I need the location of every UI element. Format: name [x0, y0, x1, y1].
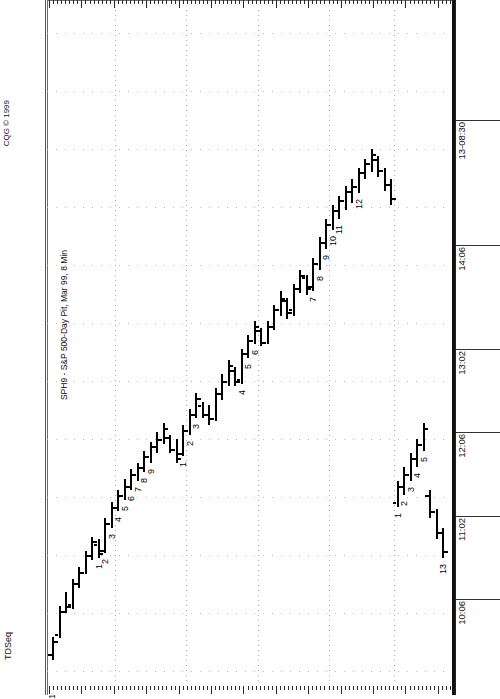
axis-tick [288, 686, 289, 690]
ohlc-open-tick [159, 439, 163, 441]
axis-tick [414, 686, 415, 690]
axis-tick [57, 686, 58, 690]
price-axis[interactable]: CQG © 1999 12650012600012550012500012450… [0, 0, 46, 695]
tdseq-count-text: 4 [238, 390, 247, 395]
axis-tick [341, 0, 342, 8]
ohlc-bar[interactable] [143, 451, 145, 472]
ohlc-open-tick [100, 550, 104, 552]
ohlc-bar[interactable] [351, 179, 353, 202]
ohlc-bar[interactable] [130, 469, 132, 490]
axis-tick [130, 0, 131, 4]
axis-tick [102, 686, 103, 690]
axis-tick [446, 0, 447, 4]
axis-tick [397, 0, 398, 4]
axis-tick [410, 0, 411, 4]
ohlc-bar[interactable] [221, 374, 223, 400]
ohlc-bar[interactable] [52, 637, 54, 660]
time-axis-separator [456, 245, 500, 246]
ohlc-bar[interactable] [364, 159, 366, 180]
ohlc-bar[interactable] [338, 196, 340, 219]
axis-tick [252, 686, 253, 690]
axis-tick [316, 686, 317, 690]
ohlc-bar[interactable] [202, 402, 204, 418]
chart-title-label: SPH9 - S&P 500-Day Pit, Mar 99, 8 Min [59, 250, 209, 260]
ohlc-bar[interactable] [163, 423, 165, 444]
ohlc-open-tick [263, 342, 267, 344]
ohlc-bar[interactable] [78, 567, 80, 588]
axis-tick [385, 686, 386, 690]
axis-tick [114, 0, 115, 8]
tdseq-count-text: 3 [407, 487, 416, 492]
ohlc-bar[interactable] [65, 592, 67, 613]
ohlc-bar[interactable] [306, 275, 308, 296]
axis-tick [211, 686, 212, 694]
ohlc-open-tick [81, 572, 85, 574]
axis-tick [296, 686, 297, 690]
tdseq-count-label: 5 [420, 457, 425, 466]
axis-tick [389, 686, 390, 690]
ohlc-open-tick [341, 200, 345, 202]
axis-tick [110, 686, 111, 690]
ohlc-bar[interactable] [377, 156, 379, 177]
ohlc-close-tick [100, 553, 104, 555]
axis-tick [385, 0, 386, 4]
axis-tick [158, 0, 159, 4]
time-axis-tick-label: 13:02 [456, 351, 500, 364]
axis-tick [280, 0, 281, 4]
ohlc-bar[interactable] [345, 186, 347, 209]
ohlc-bar[interactable] [267, 321, 269, 344]
ohlc-close-tick [288, 312, 292, 314]
ohlc-bar[interactable] [429, 490, 431, 518]
ohlc-bar[interactable] [208, 405, 210, 426]
ohlc-bar[interactable] [150, 442, 152, 463]
axis-tick [154, 0, 155, 4]
price-axis-tick-label: 121500 [0, 606, 46, 620]
ohlc-open-tick [315, 263, 319, 265]
ohlc-open-tick [367, 163, 371, 165]
ohlc-open-tick [380, 170, 384, 172]
axis-tick [353, 686, 354, 690]
ohlc-bar[interactable] [436, 509, 438, 539]
axis-tick [195, 686, 196, 690]
ohlc-bar[interactable] [390, 179, 392, 205]
ohlc-open-tick [55, 634, 59, 636]
axis-tick [320, 0, 321, 4]
axis-tick [381, 0, 382, 4]
plot-area[interactable]: 1234567891234567891011121234513 SPH9 - S… [47, 0, 499, 695]
ohlc-bar[interactable] [91, 537, 93, 560]
axis-tick [361, 0, 362, 4]
price-axis-tick-label: 126000 [0, 84, 46, 98]
ohlc-bar[interactable] [403, 467, 405, 495]
ohlc-bar[interactable] [299, 270, 301, 293]
axis-tick [369, 0, 370, 4]
ohlc-bar[interactable] [117, 490, 119, 511]
ohlc-open-tick [321, 242, 325, 244]
axis-tick [337, 0, 338, 4]
axis-tick [162, 686, 163, 690]
tdseq-count-label: 1 [394, 513, 399, 522]
axis-tick [450, 0, 451, 4]
time-axis[interactable]: 13-08:3014:0613:0212:0611:0210:06 [455, 0, 499, 695]
ohlc-bar[interactable] [286, 298, 288, 319]
ohlc-open-tick [146, 456, 150, 458]
axis-tick [227, 0, 228, 4]
axis-tick [345, 0, 346, 4]
axis-tick [138, 686, 139, 690]
ohlc-bar[interactable] [442, 528, 444, 558]
axis-tick [227, 686, 228, 690]
ohlc-bar[interactable] [384, 168, 386, 191]
price-axis-tick-label: 122500 [0, 490, 46, 504]
time-axis-separator [456, 349, 500, 350]
ohlc-bar[interactable] [85, 551, 87, 574]
ohlc-bar[interactable] [371, 149, 373, 172]
time-separator-gridline [258, 10, 259, 685]
ohlc-open-tick [432, 511, 436, 513]
axis-tick [316, 0, 317, 4]
ohlc-bar[interactable] [156, 432, 158, 453]
ohlc-bar[interactable] [254, 321, 256, 344]
ohlc-bar[interactable] [280, 291, 282, 317]
axis-tick [73, 686, 74, 690]
time-axis-tick-text: 11:02 [456, 518, 467, 544]
axis-tick [260, 0, 261, 4]
ohlc-bar[interactable] [247, 335, 249, 358]
